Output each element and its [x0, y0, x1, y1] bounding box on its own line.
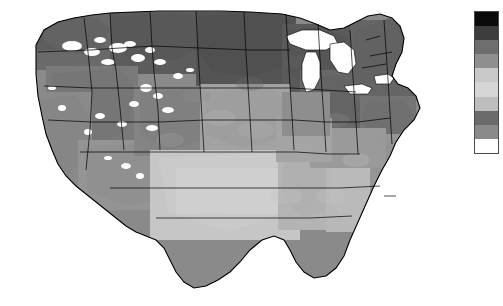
choropleth-map[interactable] — [0, 0, 462, 306]
legend-band-7[interactable] — [475, 111, 498, 125]
legend-band-2[interactable] — [475, 40, 498, 54]
legend-band-6[interactable] — [475, 97, 498, 111]
map-svg — [0, 0, 462, 306]
legend-band-3[interactable] — [475, 54, 498, 68]
legend-band-1[interactable] — [475, 26, 498, 40]
legend-band-5[interactable] — [475, 82, 498, 96]
legend-colorbar[interactable] — [474, 11, 499, 154]
figure-canvas — [0, 0, 503, 306]
legend-band-9[interactable] — [475, 139, 498, 153]
legend-band-8[interactable] — [475, 125, 498, 139]
legend-band-4[interactable] — [475, 68, 498, 82]
legend-band-0[interactable] — [475, 12, 498, 26]
map-fill-layer — [0, 0, 462, 306]
